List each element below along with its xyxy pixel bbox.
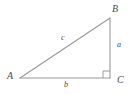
right-angle-square-icon — [103, 71, 110, 78]
side-label-b: b — [64, 81, 68, 89]
side-label-a: a — [117, 41, 121, 49]
geometry-figure: A B C a b c — [0, 0, 128, 95]
side-c-hypotenuse-line — [20, 18, 110, 78]
vertex-label-c: C — [117, 75, 124, 85]
vertex-label-b: B — [112, 4, 118, 14]
vertex-label-a: A — [7, 71, 13, 81]
side-label-c: c — [61, 34, 65, 42]
